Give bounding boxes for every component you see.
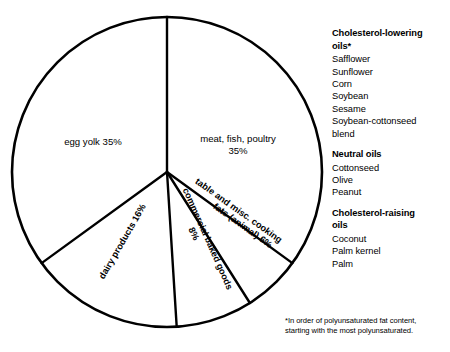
- footnote: *In order of polyunsaturated fat content…: [285, 316, 448, 336]
- pie-chart-svg: egg yolk 35% meat, fish, poultry 35% tab…: [0, 0, 340, 352]
- legend-heading-line1: Cholesterol-lowering: [332, 28, 448, 40]
- footnote-line1: *In order of polyunsaturated fat content…: [285, 316, 448, 326]
- legend-item-sesame: Sesame: [332, 103, 448, 115]
- oils-legend: Cholesterol-lowering oils* Safflower Sun…: [332, 28, 448, 279]
- legend-item-palm-kernel: Palm kernel: [332, 245, 448, 257]
- legend-item-corn: Corn: [332, 78, 448, 90]
- footnote-line2: starting with the most polyunsaturated.: [285, 326, 448, 336]
- legend-heading-line2: oils*: [332, 41, 448, 53]
- legend-item-safflower: Safflower: [332, 53, 448, 65]
- legend-item-olive: Olive: [332, 174, 448, 186]
- legend-item-soybean-cottonseed-line2: blend: [332, 128, 448, 140]
- legend-group-cholesterol-lowering: Cholesterol-lowering oils* Safflower Sun…: [332, 28, 448, 140]
- slice-label-meat-fish-poultry-line1: meat, fish, poultry: [200, 133, 276, 144]
- legend-item-sunflower: Sunflower: [332, 66, 448, 78]
- pie-chart-figure: egg yolk 35% meat, fish, poultry 35% tab…: [0, 0, 340, 352]
- legend-item-palm: Palm: [332, 258, 448, 270]
- legend-item-soybean-cottonseed-line1: Soybean-cottonseed: [332, 115, 448, 127]
- slice-label-egg-yolk: egg yolk 35%: [64, 136, 122, 147]
- legend-heading-neutral-oils: Neutral oils: [332, 149, 448, 161]
- legend-item-cottonseed: Cottonseed: [332, 162, 448, 174]
- slice-label-meat-fish-poultry-line2: 35%: [228, 145, 248, 156]
- legend-heading-raising-line2: oils: [332, 220, 448, 232]
- legend-item-soybean: Soybean: [332, 90, 448, 102]
- legend-item-coconut: Coconut: [332, 233, 448, 245]
- legend-item-peanut: Peanut: [332, 186, 448, 198]
- legend-group-cholesterol-raising: Cholesterol-raising oils Coconut Palm ke…: [332, 208, 448, 270]
- legend-group-neutral-oils: Neutral oils Cottonseed Olive Peanut: [332, 149, 448, 199]
- pie-chart-page: egg yolk 35% meat, fish, poultry 35% tab…: [0, 0, 450, 352]
- legend-heading-raising-line1: Cholesterol-raising: [332, 208, 448, 220]
